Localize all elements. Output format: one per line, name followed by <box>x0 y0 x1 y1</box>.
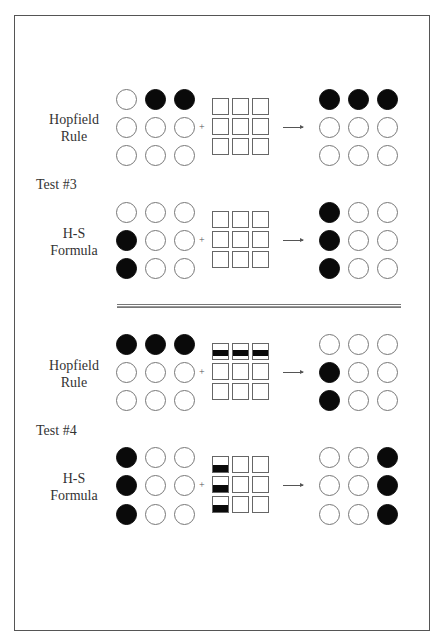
empty-circle-icon <box>174 258 195 279</box>
filled-circle-icon <box>145 89 166 110</box>
empty-circle-icon <box>377 230 398 251</box>
rule-label-line2: Rule <box>42 374 106 391</box>
empty-circle-icon <box>377 334 398 355</box>
filled-circle-icon <box>319 362 340 383</box>
plus-icon: + <box>199 480 205 490</box>
empty-circle-icon <box>377 258 398 279</box>
empty-circle-icon <box>174 202 195 223</box>
weight-square-icon <box>252 476 269 493</box>
arrow-right-icon <box>283 372 303 373</box>
empty-circle-icon <box>174 117 195 138</box>
weight-square-icon <box>252 118 269 135</box>
weight-square-icon <box>232 343 249 360</box>
weight-square-icon <box>252 496 269 513</box>
empty-circle-icon <box>319 475 340 496</box>
empty-circle-icon <box>348 390 369 411</box>
rule-label-line1: Hopfield <box>42 111 106 128</box>
empty-circle-icon <box>348 334 369 355</box>
weight-square-icon <box>212 211 229 228</box>
weight-square-icon <box>232 383 249 400</box>
rule-label-hopfield-test4: Hopfield Rule <box>42 357 106 391</box>
empty-circle-icon <box>377 117 398 138</box>
rule-label-line1: Hopfield <box>42 357 106 374</box>
arrow-right-icon <box>283 485 303 486</box>
weight-square-icon <box>252 98 269 115</box>
empty-circle-icon <box>348 362 369 383</box>
empty-circle-icon <box>145 447 166 468</box>
rule-label-hopfield-test3: Hopfield Rule <box>42 111 106 145</box>
empty-circle-icon <box>116 89 137 110</box>
weight-square-icon <box>232 456 249 473</box>
empty-circle-icon <box>174 447 195 468</box>
empty-circle-icon <box>319 447 340 468</box>
section-separator <box>117 304 401 308</box>
weight-square-icon <box>212 456 229 473</box>
weight-bar-icon <box>233 350 248 356</box>
weight-square-icon <box>252 211 269 228</box>
filled-circle-icon <box>116 230 137 251</box>
filled-circle-icon <box>116 475 137 496</box>
filled-circle-icon <box>116 504 137 525</box>
empty-circle-icon <box>319 145 340 166</box>
weight-square-icon <box>232 476 249 493</box>
empty-circle-icon <box>116 117 137 138</box>
weight-square-icon <box>252 456 269 473</box>
empty-circle-icon <box>145 145 166 166</box>
empty-circle-icon <box>377 145 398 166</box>
weight-square-icon <box>252 363 269 380</box>
empty-circle-icon <box>116 202 137 223</box>
empty-circle-icon <box>348 504 369 525</box>
weight-bar-icon <box>213 465 228 472</box>
empty-circle-icon <box>145 230 166 251</box>
rule-label-hs-test4: H-S Formula <box>42 470 106 504</box>
empty-circle-icon <box>348 447 369 468</box>
rule-label-line1: H-S <box>42 225 106 242</box>
filled-circle-icon <box>174 89 195 110</box>
empty-circle-icon <box>377 390 398 411</box>
empty-circle-icon <box>145 475 166 496</box>
filled-circle-icon <box>377 447 398 468</box>
weight-bar-icon <box>253 350 268 356</box>
filled-circle-icon <box>377 89 398 110</box>
weight-square-icon <box>232 98 249 115</box>
weight-square-icon <box>232 138 249 155</box>
plus-icon: + <box>199 235 205 245</box>
weight-bar-icon <box>213 485 228 492</box>
weight-square-icon <box>252 231 269 248</box>
arrow-right-icon <box>283 127 303 128</box>
filled-circle-icon <box>145 334 166 355</box>
empty-circle-icon <box>319 504 340 525</box>
weight-square-icon <box>232 251 249 268</box>
filled-circle-icon <box>377 475 398 496</box>
filled-circle-icon <box>174 334 195 355</box>
filled-circle-icon <box>116 258 137 279</box>
empty-circle-icon <box>145 362 166 383</box>
rule-label-line2: Formula <box>42 242 106 259</box>
filled-circle-icon <box>319 202 340 223</box>
empty-circle-icon <box>377 362 398 383</box>
filled-circle-icon <box>116 334 137 355</box>
weight-square-icon <box>252 343 269 360</box>
plus-icon: + <box>199 367 205 377</box>
empty-circle-icon <box>116 145 137 166</box>
rule-label-line2: Formula <box>42 487 106 504</box>
rule-label-line1: H-S <box>42 470 106 487</box>
test-label-4: Test #4 <box>36 422 77 439</box>
empty-circle-icon <box>348 202 369 223</box>
weight-square-icon <box>212 98 229 115</box>
weight-square-icon <box>252 138 269 155</box>
weight-square-icon <box>252 251 269 268</box>
empty-circle-icon <box>145 504 166 525</box>
weight-square-icon <box>232 363 249 380</box>
rule-label-line2: Rule <box>42 128 106 145</box>
filled-circle-icon <box>319 89 340 110</box>
empty-circle-icon <box>145 390 166 411</box>
empty-circle-icon <box>145 258 166 279</box>
weight-square-icon <box>212 363 229 380</box>
empty-circle-icon <box>319 117 340 138</box>
empty-circle-icon <box>348 475 369 496</box>
weight-square-icon <box>212 118 229 135</box>
weight-square-icon <box>212 138 229 155</box>
test-label-3: Test #3 <box>36 176 77 193</box>
empty-circle-icon <box>348 145 369 166</box>
